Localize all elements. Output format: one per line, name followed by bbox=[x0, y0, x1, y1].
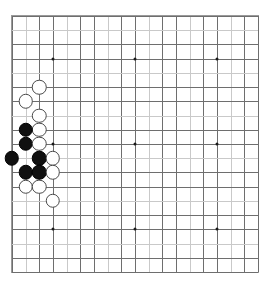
grid-line-horizontal bbox=[12, 258, 258, 259]
white-stone[interactable] bbox=[46, 194, 60, 208]
star-point bbox=[134, 143, 137, 146]
black-stone[interactable] bbox=[32, 151, 46, 165]
grid-line-horizontal bbox=[12, 30, 258, 31]
star-point bbox=[52, 143, 55, 146]
white-stone[interactable] bbox=[46, 151, 60, 165]
grid-line-horizontal bbox=[12, 44, 258, 45]
white-stone[interactable] bbox=[32, 179, 46, 193]
grid-line-vertical bbox=[258, 16, 259, 272]
star-point bbox=[52, 228, 55, 231]
grid-line-horizontal bbox=[12, 73, 258, 74]
white-stone[interactable] bbox=[32, 108, 46, 122]
white-stone[interactable] bbox=[18, 94, 32, 108]
grid-line-horizontal bbox=[12, 101, 258, 102]
star-point bbox=[52, 57, 55, 60]
grid-line-horizontal bbox=[12, 215, 258, 216]
go-board-container bbox=[0, 0, 270, 281]
go-board[interactable] bbox=[11, 15, 259, 273]
star-point bbox=[216, 57, 219, 60]
white-stone[interactable] bbox=[32, 123, 46, 137]
grid-line-horizontal bbox=[12, 272, 258, 273]
grid-line-horizontal bbox=[12, 130, 258, 131]
star-point bbox=[134, 57, 137, 60]
black-stone[interactable] bbox=[18, 165, 32, 179]
grid-line-horizontal bbox=[12, 87, 258, 88]
white-stone[interactable] bbox=[32, 137, 46, 151]
grid-line-horizontal bbox=[12, 187, 258, 188]
black-stone[interactable] bbox=[18, 123, 32, 137]
star-point bbox=[134, 228, 137, 231]
black-stone[interactable] bbox=[18, 137, 32, 151]
white-stone[interactable] bbox=[32, 80, 46, 94]
white-stone[interactable] bbox=[18, 179, 32, 193]
star-point bbox=[216, 228, 219, 231]
black-stone[interactable] bbox=[5, 151, 19, 165]
grid-line-horizontal bbox=[12, 116, 258, 117]
black-stone[interactable] bbox=[32, 165, 46, 179]
grid-line-horizontal bbox=[12, 16, 258, 17]
white-stone[interactable] bbox=[46, 165, 60, 179]
grid-line-horizontal bbox=[12, 244, 258, 245]
star-point bbox=[216, 143, 219, 146]
